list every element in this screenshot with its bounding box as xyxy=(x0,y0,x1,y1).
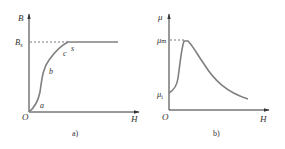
panel-b-origin-label: O xyxy=(162,112,169,122)
panel-a-point-b: b xyxy=(49,67,53,76)
panel-b-mu-initial-label: μi xyxy=(156,89,163,100)
panel-b-mu-curve xyxy=(169,41,248,99)
panel-a-bh-curve: B Bs O H a b c s a) xyxy=(15,13,139,138)
panel-b-mu-max-label: μm xyxy=(156,35,166,45)
panel-a-caption: a) xyxy=(72,129,79,138)
panel-a-origin-label: O xyxy=(22,112,29,122)
panel-a-y-label: B xyxy=(18,13,24,23)
panel-a-point-s: s xyxy=(71,44,74,53)
panel-b-x-label: H xyxy=(259,114,267,124)
panel-a-bs-label: Bs xyxy=(15,37,23,48)
panel-b-caption: b) xyxy=(213,129,220,138)
figure: B Bs O H a b c s a) μ μm μi O H b) xyxy=(0,0,285,149)
panel-a-x-label: H xyxy=(130,114,138,124)
panel-a-point-c: c xyxy=(63,49,67,58)
panel-a-point-a: a xyxy=(40,101,44,110)
panel-b-permeability-curve: μ μm μi O H b) xyxy=(156,12,269,138)
panel-b-y-label: μ xyxy=(157,12,163,22)
